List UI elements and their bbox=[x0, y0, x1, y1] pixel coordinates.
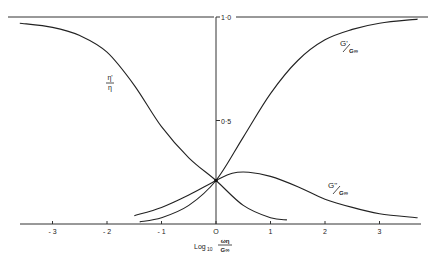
x-axis-log: Log bbox=[194, 243, 206, 251]
label-eta-ratio: η' η bbox=[106, 74, 114, 92]
label-g-double-prime: G'' G∞ bbox=[328, 181, 348, 196]
gprime-num: G' bbox=[340, 39, 348, 48]
eta-den: η bbox=[108, 84, 112, 92]
x-tick-label: - 3 bbox=[48, 228, 56, 235]
x-tick-label: O bbox=[213, 228, 219, 235]
curve-eta-ratio bbox=[20, 23, 287, 220]
chart-svg: - 3- 2- 1O1230·51·0 η' η G' G∞ G'' G∞ Lo… bbox=[0, 0, 434, 259]
x-axis-title: Log 10 ωη G∞ bbox=[194, 238, 232, 253]
x-tick-label: - 2 bbox=[103, 228, 111, 235]
intersection-point bbox=[214, 179, 218, 183]
eta-num: η' bbox=[107, 74, 112, 82]
viscoelastic-chart: - 3- 2- 1O1230·51·0 η' η G' G∞ G'' G∞ Lo… bbox=[0, 0, 434, 259]
curve-g-double-prime bbox=[134, 172, 417, 218]
x-axis-den: G∞ bbox=[221, 247, 230, 253]
curve-g-prime bbox=[140, 19, 418, 222]
y-tick-label: 1·0 bbox=[221, 14, 231, 21]
gdouble-num: G'' bbox=[328, 181, 338, 190]
x-tick-label: 3 bbox=[378, 228, 382, 235]
x-tick-label: 2 bbox=[323, 228, 327, 235]
x-tick-label: - 1 bbox=[157, 228, 165, 235]
gdouble-den: G∞ bbox=[339, 190, 348, 196]
label-g-prime: G' G∞ bbox=[340, 39, 358, 54]
gprime-den: G∞ bbox=[349, 48, 358, 54]
x-axis-num: ωη bbox=[221, 238, 230, 244]
x-axis-sub: 10 bbox=[207, 246, 213, 252]
y-tick-label: 0·5 bbox=[221, 118, 231, 125]
x-tick-label: 1 bbox=[269, 228, 273, 235]
